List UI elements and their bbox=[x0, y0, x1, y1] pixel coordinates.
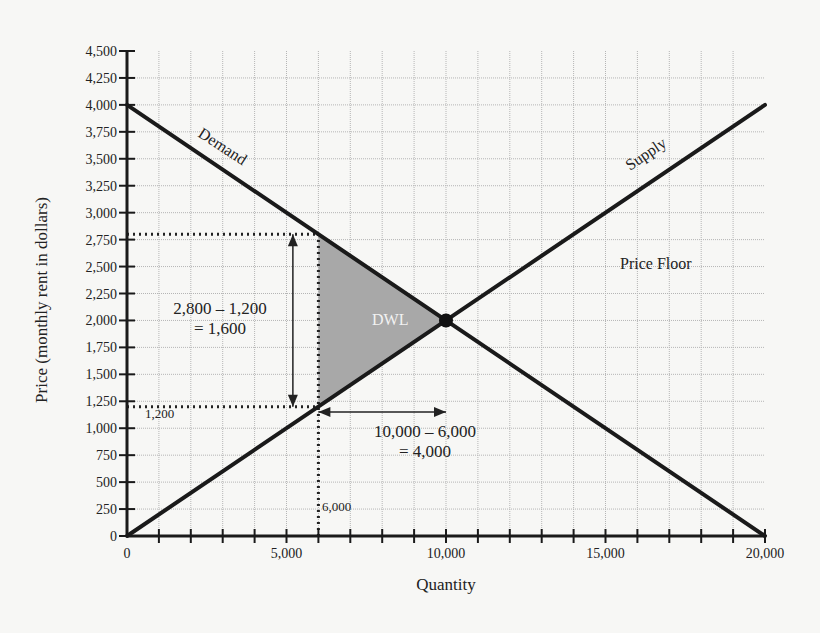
x-tick-label: 20,000 bbox=[746, 546, 785, 561]
chart: 02505007501,0001,2501,5001,7502,0002,250… bbox=[0, 0, 820, 633]
qty-6000-label: 6,000 bbox=[322, 499, 351, 514]
y-tick-label: 4,250 bbox=[86, 71, 118, 86]
equilibrium-point bbox=[439, 313, 453, 327]
y-tick-label: 1,250 bbox=[86, 394, 118, 409]
supply-label: Supply bbox=[622, 134, 670, 174]
x-tick-label: 15,000 bbox=[586, 546, 625, 561]
y-tick-label: 2,000 bbox=[86, 313, 118, 328]
y-axis-label: Price (monthly rent in dollars) bbox=[32, 197, 51, 403]
x-axis-label: Quantity bbox=[416, 575, 476, 594]
qty-diff-line2: = 4,000 bbox=[399, 442, 451, 461]
grid-lines bbox=[127, 51, 765, 536]
y-tick-label: 2,250 bbox=[86, 287, 118, 302]
y-tick-label: 500 bbox=[96, 475, 117, 490]
price-1200-label: 1,200 bbox=[145, 406, 174, 421]
y-tick-label: 1,500 bbox=[86, 367, 118, 382]
y-tick-label: 3,250 bbox=[86, 179, 118, 194]
arrowhead-icon bbox=[434, 407, 446, 417]
y-tick-label: 3,750 bbox=[86, 125, 118, 140]
dwl-label: DWL bbox=[372, 311, 408, 328]
y-tick-label: 1,750 bbox=[86, 340, 118, 355]
y-tick-label: 0 bbox=[110, 529, 117, 544]
arrowhead-icon bbox=[288, 234, 298, 246]
y-tick-label: 2,750 bbox=[86, 233, 118, 248]
x-tick-label: 0 bbox=[124, 546, 131, 561]
y-tick-label: 3,000 bbox=[86, 206, 118, 221]
y-tick-label: 2,500 bbox=[86, 260, 118, 275]
price-diff-line1: 2,800 – 1,200 bbox=[173, 299, 267, 318]
y-tick-label: 4,000 bbox=[86, 98, 118, 113]
y-tick-label: 750 bbox=[96, 448, 117, 463]
arrowhead-icon bbox=[288, 395, 298, 407]
x-tick-label: 5,000 bbox=[271, 546, 303, 561]
y-tick-label: 4,500 bbox=[86, 44, 118, 59]
price-floor-label: Price Floor bbox=[620, 255, 692, 272]
x-tick-label: 10,000 bbox=[427, 546, 466, 561]
y-tick-label: 250 bbox=[96, 502, 117, 517]
y-tick-label: 1,000 bbox=[86, 421, 118, 436]
y-tick-label: 3,500 bbox=[86, 152, 118, 167]
arrowhead-icon bbox=[318, 407, 330, 417]
qty-diff-line1: 10,000 – 6,000 bbox=[374, 422, 476, 441]
price-diff-line2: = 1,600 bbox=[194, 319, 246, 338]
